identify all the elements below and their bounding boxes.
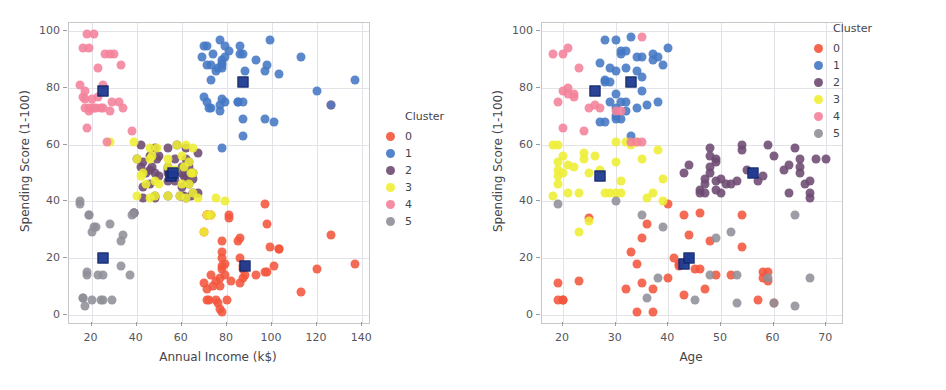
y-tick-label: 0 <box>505 307 533 320</box>
data-point <box>83 268 92 277</box>
data-point <box>659 222 668 231</box>
legend-item[interactable]: 2 <box>813 74 872 91</box>
gridline-vertical <box>272 23 273 323</box>
data-point <box>569 163 578 172</box>
data-point <box>622 64 631 73</box>
data-point <box>189 169 198 178</box>
legend-item[interactable]: 0 <box>813 40 872 57</box>
legend-swatch-icon <box>814 44 823 53</box>
legend-item[interactable]: 1 <box>385 145 444 162</box>
cluster-centroid <box>589 85 600 96</box>
data-point <box>648 307 657 316</box>
data-point <box>89 30 98 39</box>
x-tick-mark <box>136 322 137 326</box>
x-tick-label: 50 <box>713 331 727 344</box>
data-point <box>632 259 641 268</box>
cluster-centroid <box>97 85 108 96</box>
legend-title: Cluster <box>833 22 872 35</box>
legend-swatch-icon <box>814 61 823 70</box>
data-point <box>638 86 647 95</box>
legend-item-label: 2 <box>405 164 412 177</box>
y-tick-mark <box>63 30 67 31</box>
data-point <box>611 35 620 44</box>
legend-item-label: 5 <box>405 215 412 228</box>
x-axis-label: Age <box>679 350 702 364</box>
data-point <box>559 123 568 132</box>
data-point <box>216 106 225 115</box>
panel-age: 203040506070020406080100AgeSpending Scor… <box>473 0 946 390</box>
data-point <box>261 115 270 124</box>
legend-item[interactable]: 2 <box>385 162 444 179</box>
data-point <box>595 103 604 112</box>
y-tick-mark <box>536 257 540 258</box>
data-point <box>769 152 778 161</box>
data-point <box>795 163 804 172</box>
x-tick-mark <box>615 322 616 326</box>
y-tick-mark <box>536 200 540 201</box>
data-point <box>601 118 610 127</box>
data-point <box>240 67 249 76</box>
data-point <box>184 157 193 166</box>
data-point <box>326 101 335 110</box>
data-point <box>220 197 229 206</box>
legend-item[interactable]: 4 <box>813 108 872 125</box>
data-point <box>209 50 218 59</box>
gridline-horizontal <box>69 201 369 202</box>
data-point <box>806 273 815 282</box>
data-point <box>611 197 620 206</box>
data-point <box>685 231 694 240</box>
data-point <box>222 296 231 305</box>
y-tick-mark <box>536 30 540 31</box>
data-point <box>274 69 283 78</box>
data-point <box>701 285 710 294</box>
data-point <box>738 140 747 149</box>
data-point <box>130 137 139 146</box>
legend: Cluster012345 <box>385 110 444 230</box>
data-point <box>218 64 227 73</box>
legend-item[interactable]: 3 <box>385 179 444 196</box>
cluster-centroid <box>747 168 758 179</box>
legend-item[interactable]: 1 <box>813 57 872 74</box>
legend-item[interactable]: 3 <box>813 91 872 108</box>
legend-item[interactable]: 5 <box>385 213 444 230</box>
data-point <box>648 188 657 197</box>
data-point <box>638 279 647 288</box>
legend-item[interactable]: 0 <box>385 128 444 145</box>
legend-swatch-icon <box>386 149 395 158</box>
data-point <box>638 33 647 42</box>
data-point <box>107 296 116 305</box>
data-point <box>103 137 112 146</box>
data-point <box>701 188 710 197</box>
data-point <box>105 106 114 115</box>
data-point <box>622 98 631 107</box>
y-tick-label: 40 <box>32 194 60 207</box>
data-point <box>202 41 211 50</box>
data-point <box>616 177 625 186</box>
x-tick-mark <box>825 322 826 326</box>
data-point <box>150 191 159 200</box>
data-point <box>590 152 599 161</box>
gridline-horizontal <box>69 88 369 89</box>
data-point <box>128 126 137 135</box>
legend-item[interactable]: 5 <box>813 125 872 142</box>
data-point <box>695 208 704 217</box>
x-tick-label: 80 <box>219 331 233 344</box>
data-point <box>595 58 604 67</box>
legend-swatch-icon <box>386 200 395 209</box>
data-point <box>351 75 360 84</box>
data-point <box>207 211 216 220</box>
x-tick-label: 140 <box>351 331 372 344</box>
x-tick-mark <box>720 322 721 326</box>
y-tick-mark <box>63 200 67 201</box>
data-point <box>119 231 128 240</box>
cluster-centroid <box>684 252 695 263</box>
plot-area <box>68 22 370 324</box>
cluster-centroid <box>239 261 250 272</box>
legend-item-label: 3 <box>405 181 412 194</box>
data-point <box>98 270 107 279</box>
legend-item[interactable]: 4 <box>385 196 444 213</box>
data-point <box>653 98 662 107</box>
x-tick-label: 120 <box>306 331 327 344</box>
data-point <box>695 265 704 274</box>
legend-swatch-icon <box>814 78 823 87</box>
